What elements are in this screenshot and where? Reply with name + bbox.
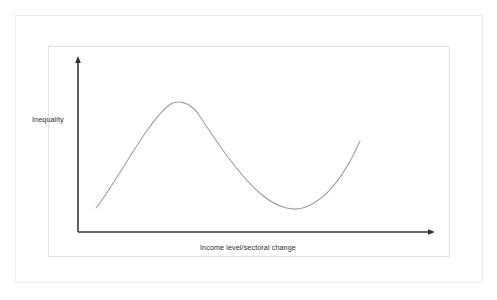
x-axis <box>78 229 435 235</box>
inequality-curve <box>96 102 360 209</box>
x-axis-label: Income level/sectoral change <box>200 244 296 251</box>
y-axis-arrow-icon <box>75 56 81 63</box>
x-axis-arrow-icon <box>428 229 435 235</box>
y-axis <box>75 56 81 232</box>
chart-plot-area <box>0 0 497 300</box>
y-axis-label: Inequality <box>32 116 64 123</box>
figure-canvas: Inequality Income level/sectoral change <box>0 0 497 300</box>
